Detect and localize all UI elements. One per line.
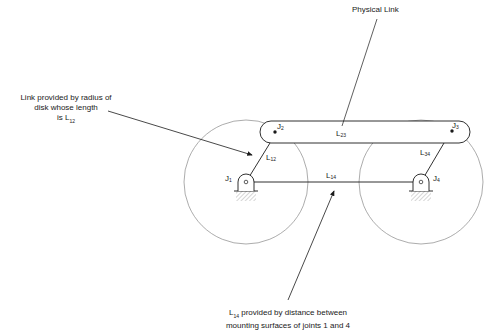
physical-link-label: Physical Link: [352, 5, 399, 15]
radius-link-line2: disk whose length: [8, 103, 124, 113]
link-l12-label: L12: [266, 153, 276, 164]
radius-link-line3: is L12: [8, 113, 124, 126]
link-l34-label: L34: [420, 148, 430, 159]
joint-j1-pivot: [234, 174, 258, 201]
ground-link-line1: L14 provided by distance between: [208, 308, 368, 321]
physical-link-leader: [342, 19, 377, 126]
link-l23-label: L23: [336, 129, 346, 140]
joint-j3-label: J3: [452, 121, 459, 132]
joint-j2-label: J2: [277, 122, 284, 133]
joint-j4-label: J4: [433, 174, 440, 185]
radius-link-leader-arrow: [108, 111, 252, 155]
radius-link-line1: Link provided by radius of: [8, 93, 124, 103]
radius-link-annotation: Link provided by radius of disk whose le…: [8, 93, 124, 126]
ground-link-leader-arrow: [288, 191, 334, 300]
joint-j4-pivot: [409, 174, 433, 201]
link-l14-label: L14: [326, 171, 336, 182]
ground-link-line2: mounting surfaces of joints 1 and 4: [208, 321, 368, 331]
ground-link-annotation: L14 provided by distance between mountin…: [208, 308, 368, 331]
joint-j1-label: J1: [225, 174, 232, 185]
coupler-link-l23: [260, 121, 470, 143]
